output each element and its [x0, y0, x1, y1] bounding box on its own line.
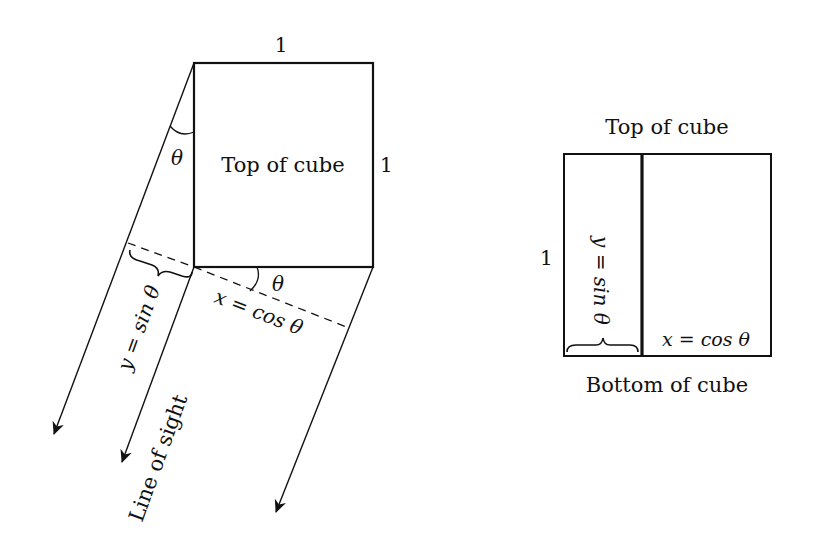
cube-projection-diagram: 1 1 Top of cube θ θ y = sin θ x = cos θ …: [0, 0, 814, 551]
right-diagram: Top of cube 1 y = sin θ x = cos θ Bottom…: [540, 115, 771, 397]
angle-label-top: θ: [171, 146, 183, 170]
sight-line-left: [54, 63, 194, 434]
top-edge-label: 1: [275, 33, 288, 57]
top-of-cube-label: Top of cube: [605, 115, 728, 139]
sight-line-right: [276, 267, 373, 512]
square-label: Top of cube: [221, 153, 344, 177]
right-edge-label: 1: [380, 153, 393, 177]
x-cos-label-right: x = cos θ: [662, 328, 751, 350]
angle-arc-bottom: [250, 267, 258, 291]
left-diagram: 1 1 Top of cube θ θ y = sin θ x = cos θ …: [54, 33, 393, 525]
side-length-label: 1: [540, 246, 553, 270]
bottom-of-cube-label: Bottom of cube: [586, 373, 748, 397]
dashed-line-y: [128, 243, 194, 267]
x-cos-label: x = cos θ: [211, 284, 306, 340]
y-sin-label-right: y = sin θ: [589, 235, 613, 325]
brace-right: [567, 338, 638, 352]
y-sin-label: y = sin θ: [112, 282, 165, 375]
angle-arc-top: [170, 126, 194, 134]
line-of-sight-label: Line of sight: [124, 391, 192, 525]
angle-label-bottom: θ: [272, 272, 284, 296]
